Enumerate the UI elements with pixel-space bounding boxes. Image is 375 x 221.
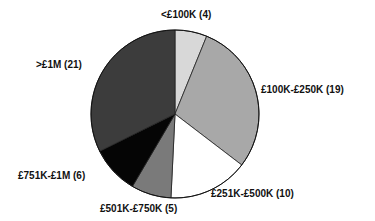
- label-251k-500k: £251K-£500K (10): [211, 188, 294, 200]
- label-under-100k: <£100K (4): [161, 9, 211, 21]
- label-over-1m: >£1M (21): [36, 59, 82, 71]
- label-751k-1m: £751K-£1M (6): [18, 170, 85, 182]
- pie-chart: [0, 0, 375, 221]
- label-100k-250k: £100K-£250K (19): [261, 84, 344, 96]
- label-501k-750k: £501K-£750K (5): [100, 203, 177, 215]
